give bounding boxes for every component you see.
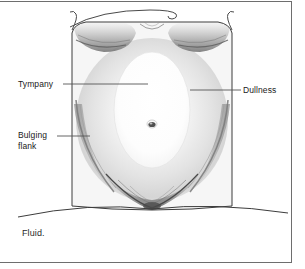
- figure-caption: Fluid.: [22, 228, 45, 239]
- figure-page: Tympany Dullness Bulging flank Fluid.: [0, 0, 305, 269]
- tympany-region: [114, 52, 190, 168]
- label-bulging-flank-line1: Bulging: [18, 130, 47, 141]
- label-dullness: Dullness: [243, 85, 276, 96]
- label-bulging-flank-line2: flank: [18, 141, 47, 152]
- label-tympany: Tympany: [18, 79, 53, 90]
- umbilicus: [147, 120, 157, 128]
- label-bulging-flank: Bulging flank: [18, 130, 47, 151]
